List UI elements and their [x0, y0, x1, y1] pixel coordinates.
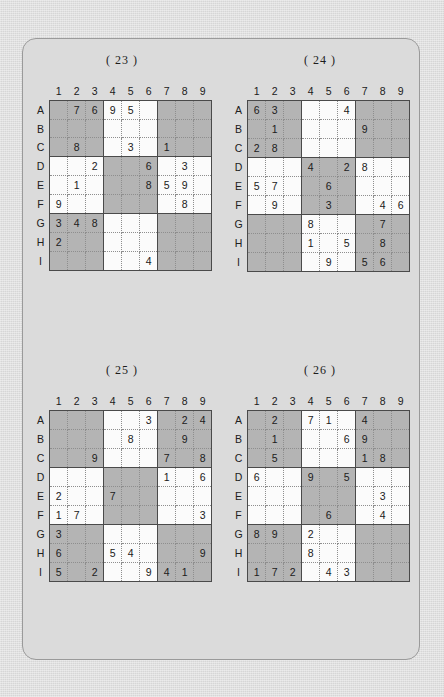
cell-A3[interactable] — [284, 101, 302, 120]
cell-D8[interactable] — [176, 468, 194, 487]
cell-B8[interactable] — [374, 430, 392, 449]
cell-E4[interactable] — [302, 487, 320, 506]
cell-H9[interactable] — [392, 544, 410, 563]
cell-I9[interactable] — [392, 253, 410, 272]
cell-A1[interactable]: 6 — [248, 101, 266, 120]
cell-I7[interactable]: 5 — [356, 253, 374, 272]
cell-A8[interactable] — [374, 411, 392, 430]
cell-F6[interactable] — [140, 195, 158, 214]
cell-C5[interactable] — [320, 449, 338, 468]
cell-G5[interactable] — [122, 525, 140, 544]
cell-C7[interactable]: 7 — [158, 449, 176, 468]
cell-D6[interactable] — [140, 468, 158, 487]
cell-A3[interactable] — [86, 411, 104, 430]
cell-B5[interactable]: 8 — [122, 430, 140, 449]
cell-C8[interactable]: 8 — [374, 449, 392, 468]
cell-A9[interactable] — [392, 101, 410, 120]
cell-H3[interactable] — [284, 544, 302, 563]
cell-H2[interactable] — [68, 233, 86, 252]
cell-F8[interactable] — [176, 506, 194, 525]
cell-E4[interactable]: 7 — [104, 487, 122, 506]
cell-G7[interactable] — [158, 525, 176, 544]
cell-H2[interactable] — [266, 234, 284, 253]
cell-E6[interactable] — [338, 487, 356, 506]
cell-G1[interactable]: 8 — [248, 525, 266, 544]
cell-G9[interactable] — [194, 214, 212, 233]
cell-F9[interactable] — [392, 506, 410, 525]
cell-G3[interactable] — [284, 525, 302, 544]
cell-A4[interactable] — [302, 101, 320, 120]
cell-E8[interactable]: 9 — [176, 176, 194, 195]
cell-F4[interactable] — [104, 195, 122, 214]
cell-I9[interactable] — [194, 252, 212, 271]
cell-E3[interactable] — [284, 177, 302, 196]
cell-D7[interactable]: 8 — [356, 158, 374, 177]
cell-H1[interactable] — [248, 544, 266, 563]
cell-I8[interactable]: 1 — [176, 563, 194, 582]
cell-G6[interactable] — [338, 525, 356, 544]
cell-D4[interactable]: 4 — [302, 158, 320, 177]
cell-C5[interactable] — [320, 139, 338, 158]
cell-C3[interactable] — [284, 139, 302, 158]
cell-D3[interactable] — [284, 158, 302, 177]
cell-F2[interactable] — [68, 195, 86, 214]
cell-B8[interactable] — [176, 120, 194, 138]
cell-F7[interactable] — [356, 196, 374, 215]
cell-B7[interactable] — [158, 430, 176, 449]
cell-H3[interactable] — [284, 234, 302, 253]
cell-F9[interactable]: 6 — [392, 196, 410, 215]
cell-I3[interactable]: 2 — [86, 563, 104, 582]
cell-B4[interactable] — [302, 120, 320, 139]
cell-D5[interactable] — [122, 157, 140, 176]
cell-B6[interactable] — [140, 120, 158, 138]
cell-I6[interactable]: 9 — [140, 563, 158, 582]
cell-B3[interactable] — [284, 120, 302, 139]
cell-G4[interactable]: 2 — [302, 525, 320, 544]
cell-F6[interactable] — [338, 196, 356, 215]
cell-I4[interactable] — [104, 252, 122, 271]
cell-A7[interactable]: 4 — [356, 411, 374, 430]
cell-F1[interactable]: 9 — [50, 195, 68, 214]
cell-I2[interactable] — [68, 563, 86, 582]
cell-D7[interactable] — [356, 468, 374, 487]
cell-I8[interactable] — [176, 252, 194, 271]
cell-G5[interactable] — [320, 215, 338, 234]
cell-C3[interactable]: 9 — [86, 449, 104, 468]
cell-A6[interactable]: 4 — [338, 101, 356, 120]
cell-D2[interactable] — [266, 468, 284, 487]
cell-H6[interactable]: 5 — [338, 234, 356, 253]
cell-I2[interactable] — [68, 252, 86, 271]
cell-E2[interactable]: 1 — [68, 176, 86, 195]
cell-B7[interactable] — [158, 120, 176, 138]
cell-D8[interactable]: 3 — [176, 157, 194, 176]
cell-B7[interactable]: 9 — [356, 120, 374, 139]
cell-H1[interactable]: 2 — [50, 233, 68, 252]
cell-B2[interactable] — [68, 430, 86, 449]
cell-H4[interactable] — [104, 233, 122, 252]
cell-A9[interactable] — [392, 411, 410, 430]
cell-I7[interactable]: 4 — [158, 563, 176, 582]
cell-C2[interactable]: 5 — [266, 449, 284, 468]
cell-F1[interactable] — [248, 196, 266, 215]
cell-H1[interactable]: 6 — [50, 544, 68, 563]
cell-E6[interactable]: 8 — [140, 176, 158, 195]
cell-C7[interactable]: 1 — [356, 449, 374, 468]
cell-G4[interactable] — [104, 214, 122, 233]
cell-I7[interactable] — [356, 563, 374, 582]
cell-B1[interactable] — [248, 120, 266, 139]
cell-B4[interactable] — [104, 430, 122, 449]
cell-E8[interactable] — [374, 177, 392, 196]
cell-I9[interactable] — [194, 563, 212, 582]
cell-E2[interactable] — [68, 487, 86, 506]
cell-E3[interactable] — [86, 487, 104, 506]
cell-A1[interactable] — [50, 411, 68, 430]
cell-H4[interactable]: 5 — [104, 544, 122, 563]
cell-I9[interactable] — [392, 563, 410, 582]
cell-B1[interactable] — [50, 430, 68, 449]
cell-D5[interactable] — [122, 468, 140, 487]
cell-A5[interactable]: 5 — [122, 101, 140, 120]
cell-E2[interactable]: 7 — [266, 177, 284, 196]
cell-A6[interactable]: 3 — [140, 411, 158, 430]
cell-H9[interactable] — [194, 233, 212, 252]
cell-B3[interactable] — [86, 120, 104, 138]
